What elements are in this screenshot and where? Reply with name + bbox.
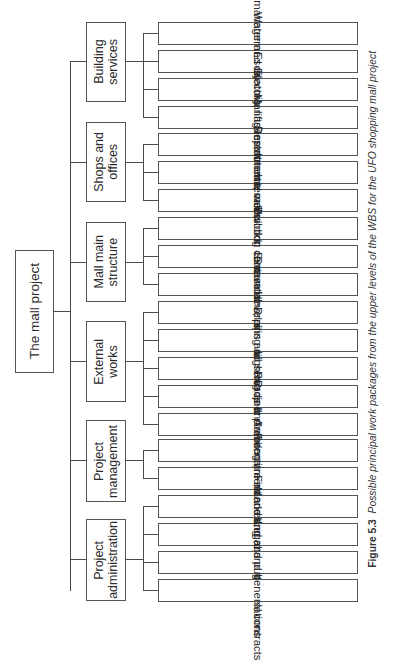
figure-caption: Figure 5.3 Possible principal work packa… bbox=[362, 0, 384, 619]
leaf-connector bbox=[143, 590, 159, 591]
sub-connector bbox=[125, 262, 144, 263]
leaf-connector bbox=[143, 534, 159, 535]
sub-spine bbox=[143, 33, 144, 117]
root-connector bbox=[53, 311, 71, 312]
leaf-connector bbox=[143, 33, 159, 34]
branch-connector bbox=[70, 61, 87, 62]
root-node: The mall project bbox=[15, 250, 54, 373]
caption-number: Figure 5.3 bbox=[367, 519, 378, 568]
branch-connector bbox=[70, 559, 87, 560]
leaf-connector bbox=[143, 284, 159, 285]
leaf-connector bbox=[143, 89, 159, 90]
sub-connector bbox=[125, 559, 144, 560]
branch-project-management: Project management bbox=[86, 420, 126, 502]
branch-label: Project administration bbox=[92, 521, 121, 599]
leaf-connector bbox=[143, 396, 159, 397]
leaf-connector bbox=[143, 340, 159, 341]
leaf-connector bbox=[143, 61, 159, 62]
leaf-connector bbox=[143, 562, 159, 563]
sub-spine bbox=[143, 506, 144, 591]
branch-connector bbox=[70, 361, 87, 362]
leaf-item: Legal and general contracts bbox=[158, 579, 358, 602]
leaf-connector bbox=[143, 368, 159, 369]
leaf-connector bbox=[143, 478, 159, 479]
leaf-connector bbox=[143, 506, 159, 507]
sub-connector bbox=[125, 361, 144, 362]
branch-project-administration: Project administration bbox=[86, 519, 126, 601]
leaf-connector bbox=[143, 256, 159, 257]
branch-connector bbox=[70, 162, 87, 163]
sub-spine bbox=[143, 450, 144, 479]
sub-connector bbox=[125, 460, 144, 461]
level1-spine bbox=[70, 61, 71, 591]
sub-connector bbox=[125, 162, 144, 163]
caption-text: Figure 5.3 Possible principal work packa… bbox=[367, 51, 379, 568]
branch-external-works: External works bbox=[86, 321, 126, 402]
leaf-connector bbox=[143, 200, 159, 201]
root-label: The mall project bbox=[27, 263, 43, 359]
leaf-connector bbox=[143, 117, 159, 118]
branch-mall-main-structure: Mall main structure bbox=[86, 222, 126, 302]
branch-label: Project management bbox=[92, 425, 121, 498]
branch-connector bbox=[70, 460, 87, 461]
branch-label: Building services bbox=[92, 39, 121, 85]
leaf-connector bbox=[143, 424, 159, 425]
caption-body: Possible principal work packages from th… bbox=[367, 51, 378, 513]
branch-building-services: Building services bbox=[86, 22, 126, 102]
leaf-connector bbox=[143, 172, 159, 173]
branch-label: External works bbox=[92, 339, 121, 385]
branch-label: Shops and offices bbox=[92, 132, 121, 192]
leaf-label: Legal and general contracts bbox=[252, 521, 264, 660]
leaf-connector bbox=[143, 450, 159, 451]
branch-connector bbox=[70, 262, 87, 263]
branch-shops-and-offices: Shops and offices bbox=[86, 122, 126, 202]
leaf-connector bbox=[143, 312, 159, 313]
sub-connector bbox=[125, 61, 144, 62]
leaf-connector bbox=[143, 228, 159, 229]
branch-label: Mall main structure bbox=[92, 235, 121, 289]
leaf-connector bbox=[143, 144, 159, 145]
